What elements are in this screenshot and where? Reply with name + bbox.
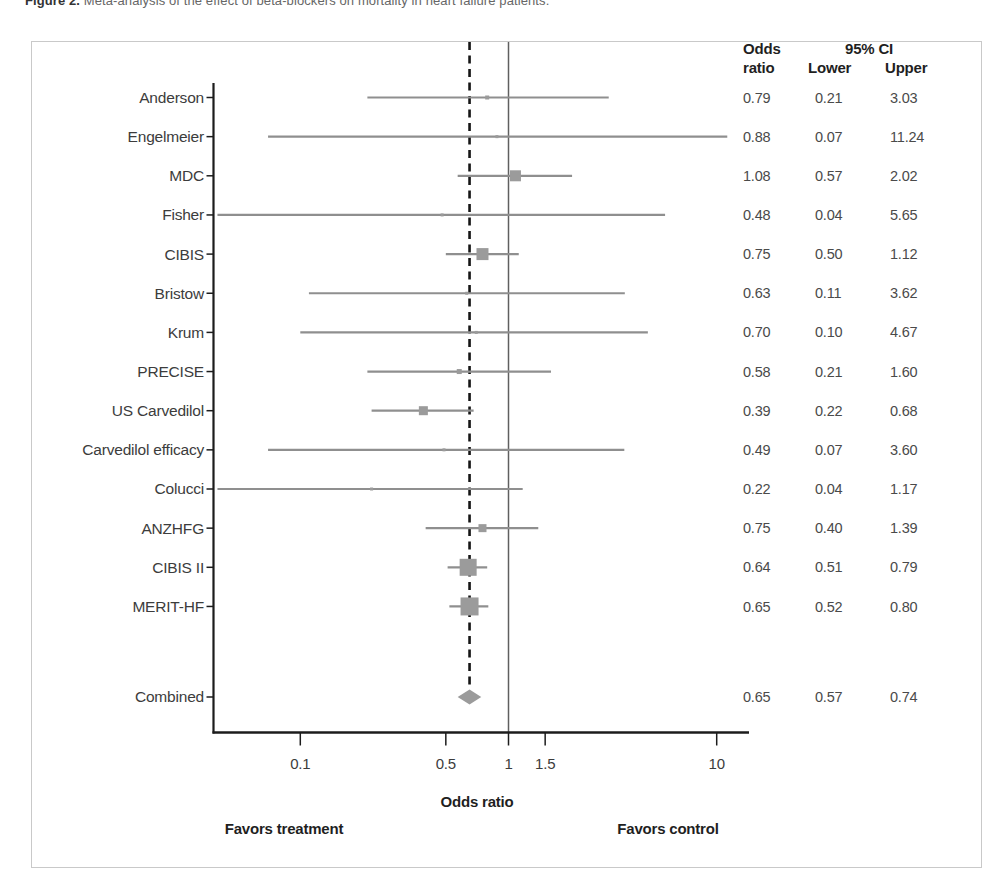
lower-value: 0.40 xyxy=(815,520,843,536)
or-marker xyxy=(465,292,468,295)
study-label: MDC xyxy=(169,167,204,184)
upper-value: 0.79 xyxy=(890,559,918,575)
favors-control-label: Favors control xyxy=(617,820,718,837)
upper-value: 2.02 xyxy=(890,168,918,184)
study-label: Colucci xyxy=(155,480,204,497)
or-value: 0.63 xyxy=(743,285,771,301)
lower-value: 0.52 xyxy=(815,599,843,615)
or-value: 0.58 xyxy=(743,364,771,380)
forest-plot-svg: 0.10.511.510Anderson0.790.213.03Engelmei… xyxy=(0,0,993,869)
or-marker xyxy=(419,406,428,415)
lower-value: 0.11 xyxy=(815,285,841,301)
lower-value: 0.51 xyxy=(815,559,843,575)
study-label: MERIT-HF xyxy=(132,598,204,615)
combined-diamond xyxy=(458,690,482,705)
lower-value: 0.07 xyxy=(815,442,843,458)
study-label: Carvedilol efficacy xyxy=(82,441,204,458)
study-label: Anderson xyxy=(139,89,204,106)
lower-value: 0.21 xyxy=(815,90,843,106)
or-marker xyxy=(461,597,479,615)
or-marker xyxy=(460,559,477,576)
or-value: 0.70 xyxy=(743,324,771,340)
or-value: 0.48 xyxy=(743,207,771,223)
lower-value: 0.21 xyxy=(815,364,843,380)
column-header-upper: Upper xyxy=(885,59,927,76)
combined-label: Combined xyxy=(135,688,204,705)
or-value: 1.08 xyxy=(743,168,771,184)
or-marker xyxy=(495,135,498,138)
or-marker xyxy=(478,524,486,532)
study-label: US Carvedilol xyxy=(112,402,204,419)
or-marker xyxy=(475,331,478,334)
upper-value: 1.17 xyxy=(890,481,918,497)
or-marker xyxy=(441,213,444,216)
lower-value: 0.04 xyxy=(815,481,843,497)
figure-page: Figure 2. Meta-analysis of the effect of… xyxy=(0,0,993,869)
upper-value: 3.60 xyxy=(890,442,918,458)
or-marker xyxy=(370,488,373,491)
lower-value: 0.57 xyxy=(815,168,843,184)
lower-value: 0.22 xyxy=(815,403,843,419)
upper-value: 11.24 xyxy=(890,129,924,145)
column-header-ci: 95% CI xyxy=(845,40,893,57)
xaxis-title: Odds ratio xyxy=(440,793,513,810)
or-value: 0.65 xyxy=(743,689,771,705)
lower-value: 0.10 xyxy=(815,324,843,340)
upper-value: 0.80 xyxy=(890,599,918,615)
or-value: 0.64 xyxy=(743,559,771,575)
upper-value: 1.60 xyxy=(890,364,918,380)
lower-value: 0.50 xyxy=(815,246,843,262)
or-value: 0.79 xyxy=(743,90,771,106)
axis-tick-label: 1 xyxy=(504,755,512,772)
column-header-lower: Lower xyxy=(808,59,851,76)
or-marker xyxy=(442,448,445,451)
upper-value: 1.39 xyxy=(890,520,918,536)
or-marker xyxy=(485,96,489,100)
column-header-odds-ratio: ratio xyxy=(743,59,775,76)
upper-value: 5.65 xyxy=(890,207,918,223)
upper-value: 0.74 xyxy=(890,689,918,705)
or-marker xyxy=(457,369,462,374)
upper-value: 4.67 xyxy=(890,324,918,340)
or-value: 0.88 xyxy=(743,129,771,145)
axis-tick-label: 1.5 xyxy=(535,755,555,772)
upper-value: 3.03 xyxy=(890,90,918,106)
or-value: 0.22 xyxy=(743,481,771,497)
or-value: 0.39 xyxy=(743,403,771,419)
upper-value: 3.62 xyxy=(890,285,918,301)
study-label: Krum xyxy=(168,324,204,341)
favors-treatment-label: Favors treatment xyxy=(225,820,344,837)
or-marker xyxy=(510,170,521,181)
study-label: CIBIS xyxy=(165,246,204,263)
upper-value: 0.68 xyxy=(890,403,918,419)
axis-tick-label: 0.1 xyxy=(290,755,310,772)
or-value: 0.75 xyxy=(743,520,771,536)
lower-value: 0.57 xyxy=(815,689,843,705)
or-value: 0.65 xyxy=(743,599,771,615)
axis-tick-label: 10 xyxy=(709,755,725,772)
study-label: ANZHFG xyxy=(141,520,204,537)
or-marker xyxy=(476,248,488,260)
or-value: 0.75 xyxy=(743,246,771,262)
upper-value: 1.12 xyxy=(890,246,918,262)
lower-value: 0.04 xyxy=(815,207,843,223)
column-header-odds: Odds xyxy=(743,40,781,57)
lower-value: 0.07 xyxy=(815,129,843,145)
study-label: CIBIS II xyxy=(152,559,204,576)
study-label: Bristow xyxy=(155,285,205,302)
study-label: PRECISE xyxy=(137,363,204,380)
study-label: Fisher xyxy=(162,206,204,223)
study-label: Engelmeier xyxy=(128,128,204,145)
or-value: 0.49 xyxy=(743,442,771,458)
axis-tick-label: 0.5 xyxy=(436,755,456,772)
